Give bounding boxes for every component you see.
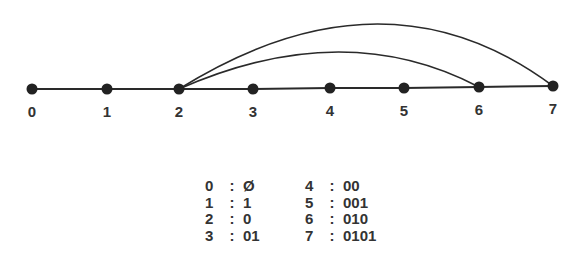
node-7 xyxy=(548,81,559,92)
code-key: 1 xyxy=(205,195,221,212)
code-key: 6 xyxy=(305,211,321,228)
edge-6-7 xyxy=(479,86,553,87)
code-key: 7 xyxy=(305,228,321,245)
node-label-7: 7 xyxy=(549,100,557,117)
code-value: 00 xyxy=(343,178,360,195)
edge-5-6 xyxy=(404,87,479,88)
node-3 xyxy=(248,84,259,95)
code-row: 3:01 xyxy=(205,228,260,245)
code-row: 4:00 xyxy=(305,178,376,195)
node-label-0: 0 xyxy=(28,103,36,120)
code-sep: : xyxy=(321,211,343,228)
code-key: 2 xyxy=(205,211,221,228)
node-label-1: 1 xyxy=(103,103,111,120)
code-sep: : xyxy=(321,178,343,195)
code-value: 010 xyxy=(343,211,368,228)
code-key: 5 xyxy=(305,195,321,212)
code-row: 7:0101 xyxy=(305,228,376,245)
node-label-6: 6 xyxy=(475,101,483,118)
code-sep: : xyxy=(221,195,243,212)
code-row: 5:001 xyxy=(305,195,376,212)
code-value: 01 xyxy=(243,228,260,245)
node-label-4: 4 xyxy=(326,102,334,119)
node-0 xyxy=(27,84,38,95)
code-column-right: 4:005:0016:0107:0101 xyxy=(305,178,376,244)
code-column-left: 0:Ø1:12:03:01 xyxy=(205,178,260,244)
code-value: 0101 xyxy=(343,228,376,245)
code-value: Ø xyxy=(243,178,255,195)
code-sep: : xyxy=(321,228,343,245)
code-key: 0 xyxy=(205,178,221,195)
node-4 xyxy=(325,83,336,94)
arc-edge-2-7 xyxy=(179,24,553,89)
node-label-2: 2 xyxy=(175,103,183,120)
node-5 xyxy=(399,83,410,94)
node-label-5: 5 xyxy=(400,102,408,119)
code-sep: : xyxy=(221,211,243,228)
code-key: 3 xyxy=(205,228,221,245)
code-sep: : xyxy=(221,228,243,245)
code-row: 1:1 xyxy=(205,195,260,212)
code-sep: : xyxy=(321,195,343,212)
node-2 xyxy=(174,84,185,95)
code-value: 001 xyxy=(343,195,368,212)
edge-3-4 xyxy=(253,88,330,89)
code-row: 0:Ø xyxy=(205,178,260,195)
node-6 xyxy=(474,82,485,93)
code-row: 6:010 xyxy=(305,211,376,228)
code-sep: : xyxy=(221,178,243,195)
code-key: 4 xyxy=(305,178,321,195)
code-value: 1 xyxy=(243,195,251,212)
node-1 xyxy=(102,84,113,95)
graph-diagram xyxy=(0,0,580,279)
node-label-3: 3 xyxy=(249,103,257,120)
code-value: 0 xyxy=(243,211,251,228)
edges xyxy=(32,24,553,89)
code-row: 2:0 xyxy=(205,211,260,228)
